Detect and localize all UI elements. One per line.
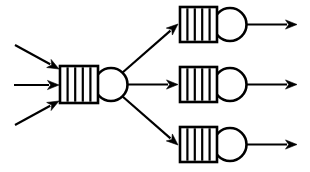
departure-arrow-top-head <box>286 20 298 29</box>
arrival-arrow-middle <box>14 80 59 89</box>
branch-arrow-top-shaft <box>122 31 170 73</box>
branch-arrow-top <box>122 24 178 73</box>
central-station <box>60 66 128 103</box>
branch-arrow-middle-head <box>167 80 179 89</box>
top-station-server-circle <box>214 8 247 41</box>
middle-station-server-circle <box>214 68 247 101</box>
departure-arrow-top <box>247 20 297 29</box>
central-station-queue-box <box>60 66 98 103</box>
departure-arrow-bottom-head <box>286 140 298 149</box>
arrival-arrow-bottom-shaft <box>15 106 50 125</box>
queueing-network-diagram <box>0 0 310 172</box>
departure-arrow-bottom <box>247 140 297 149</box>
branch-arrow-bottom <box>122 96 178 145</box>
middle-station <box>180 67 247 102</box>
arrival-arrow-middle-head <box>48 80 60 89</box>
arrows-layer <box>14 20 297 149</box>
branch-arrow-bottom-shaft <box>122 96 170 138</box>
departure-arrow-middle-head <box>286 80 298 89</box>
diagram-canvas <box>0 0 310 172</box>
arrival-arrow-bottom <box>15 101 59 125</box>
arrival-arrow-top-shaft <box>15 45 50 64</box>
bottom-station-queue-box <box>180 127 217 162</box>
middle-station-queue-box <box>180 67 217 102</box>
bottom-station-server-circle <box>214 128 247 161</box>
bottom-station <box>180 127 247 162</box>
top-station-queue-box <box>180 7 217 42</box>
branch-arrow-middle <box>128 80 178 89</box>
arrival-arrow-top <box>15 45 59 69</box>
top-station <box>180 7 247 42</box>
central-station-server-circle <box>95 68 128 101</box>
departure-arrow-middle <box>247 80 297 89</box>
